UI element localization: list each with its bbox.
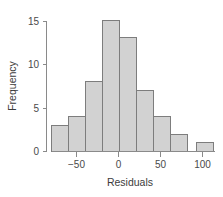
bar-bin-5 <box>137 91 154 152</box>
x-axis-title: Residuals <box>107 176 153 188</box>
bar-bin-6 <box>154 117 171 152</box>
bar-bin-0 <box>52 126 69 152</box>
bar-bin-3 <box>103 21 120 152</box>
bar-bin-9 <box>197 143 214 152</box>
bars-group <box>52 21 214 152</box>
bar-bin-2 <box>86 82 103 152</box>
y-tick-label-10: 10 <box>28 59 40 70</box>
chart-canvas: 15 10 5 0 −50 0 50 100 Residuals Frequen… <box>0 0 223 197</box>
x-axis: −50 0 50 100 <box>52 152 215 171</box>
y-axis-title: Frequency <box>6 60 18 110</box>
y-axis: 15 10 5 0 <box>28 16 47 157</box>
x-tick-label-50: 50 <box>155 159 167 170</box>
y-tick-label-5: 5 <box>33 103 39 114</box>
x-tick-label-0: 0 <box>116 159 122 170</box>
bar-bin-4 <box>120 38 137 152</box>
bar-bin-1 <box>69 117 86 152</box>
x-tick-label-neg50: −50 <box>68 159 85 170</box>
histogram-chart: 15 10 5 0 −50 0 50 100 Residuals Frequen… <box>0 0 223 197</box>
x-tick-label-100: 100 <box>194 159 211 170</box>
bar-bin-7 <box>171 135 188 152</box>
y-tick-label-15: 15 <box>28 16 40 27</box>
y-tick-label-0: 0 <box>33 146 39 157</box>
